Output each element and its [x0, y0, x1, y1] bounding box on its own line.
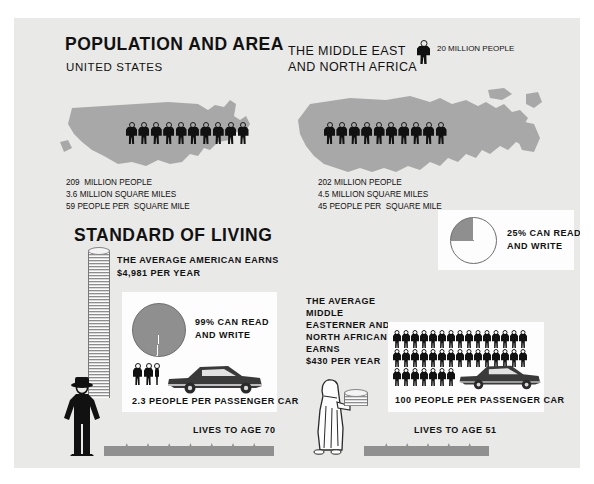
- mena-stat-density: 45 PEOPLE PER SQUARE MILE: [318, 202, 442, 211]
- us-stat-density: 59 PEOPLE PER SQUARE MILE: [66, 202, 190, 211]
- person-icon: [349, 122, 360, 144]
- mena-people-icon-row: [324, 122, 447, 144]
- lifespan-notch: [189, 443, 192, 447]
- person-body: [138, 127, 149, 144]
- person-body: [393, 353, 401, 367]
- lifespan-notch: [468, 443, 471, 447]
- person-body: [393, 372, 401, 386]
- mena-people-icon-row: [393, 368, 455, 386]
- person-icon: [225, 122, 236, 144]
- lifespan-notch: [385, 443, 388, 447]
- person-body: [447, 334, 455, 348]
- mena-literacy-label-line1: 25% CAN READ: [507, 228, 580, 238]
- mena-sedan-car-icon: [458, 362, 542, 390]
- person-icon: [411, 349, 419, 367]
- person-icon: [501, 330, 509, 348]
- mena-stat-area: 4.5 MILLION SQUARE MILES: [318, 190, 428, 199]
- us-car-label: 2.3 PEOPLE PER PASSENGER CAR: [132, 396, 299, 406]
- person-icon: [492, 330, 500, 348]
- person-body: [386, 127, 397, 144]
- person-body: [429, 372, 437, 386]
- mena-people-icon-row: [393, 330, 527, 348]
- person-body: [238, 127, 249, 144]
- person-icon: [456, 330, 464, 348]
- person-icon: [188, 122, 199, 144]
- person-icon: [374, 122, 385, 144]
- person-icon: [447, 368, 455, 386]
- person-icon: [213, 122, 224, 144]
- us-literacy-pie: [132, 303, 186, 357]
- person-body: [200, 127, 211, 144]
- person-icon: [429, 368, 437, 386]
- mena-income-line-5: EARNS: [306, 343, 390, 355]
- person-body: [155, 368, 159, 385]
- person-icon: [519, 330, 527, 348]
- us-subtitle: UNITED STATES: [66, 61, 163, 73]
- person-body: [126, 127, 137, 144]
- person-body: [429, 334, 437, 348]
- us-literacy-label-line2: AND WRITE: [195, 330, 251, 340]
- person-icon: [176, 122, 187, 144]
- legend-person-icon: [417, 40, 430, 64]
- person-body: [151, 127, 162, 144]
- mena-lifespan-label: LIVES TO AGE 51: [414, 425, 497, 435]
- us-income-label-line2: $4,981 PER YEAR: [117, 268, 200, 278]
- person-body: [144, 368, 153, 385]
- person-icon: [133, 363, 142, 385]
- person-body: [336, 127, 347, 144]
- person-icon: [402, 330, 410, 348]
- person-body: [465, 334, 473, 348]
- us-literacy-label-line1: 99% CAN READ: [195, 317, 269, 327]
- mena-income-line-6: $430 PER YEAR: [306, 355, 390, 367]
- person-body: [398, 127, 409, 144]
- infographic-poster: POPULATION AND AREA UNITED STATES THE MI…: [14, 18, 580, 468]
- mena-income-line-4: NORTH AFRICAN: [306, 331, 390, 343]
- person-icon: [393, 368, 401, 386]
- person-body: [411, 127, 422, 144]
- person-icon: [393, 349, 401, 367]
- mena-literacy-label-line2: AND WRITE: [507, 241, 563, 251]
- person-body: [374, 127, 385, 144]
- person-icon: [447, 330, 455, 348]
- mena-car-label: 100 PEOPLE PER PASSENGER CAR: [395, 395, 564, 405]
- person-icon: [438, 330, 446, 348]
- person-icon: [465, 330, 473, 348]
- lifespan-notch: [427, 443, 430, 447]
- person-icon: [411, 122, 422, 144]
- person-body: [438, 353, 446, 367]
- lifespan-notch: [147, 443, 150, 447]
- us-people-icon-row: [126, 122, 249, 144]
- coin-stack-top: [88, 247, 110, 255]
- person-icon: [483, 330, 491, 348]
- person-body: [438, 334, 446, 348]
- page-title: POPULATION AND AREA: [65, 34, 284, 55]
- person-icon: [144, 363, 153, 385]
- person-icon: [423, 122, 434, 144]
- person-icon: [238, 122, 249, 144]
- person-body: [483, 334, 491, 348]
- person-body: [176, 127, 187, 144]
- person-icon: [420, 368, 428, 386]
- person-icon: [429, 330, 437, 348]
- person-icon: [436, 122, 447, 144]
- mena-stat-population: 202 MILLION PEOPLE: [318, 178, 402, 187]
- person-icon: [324, 122, 335, 144]
- mena-coin-stack: [344, 392, 368, 406]
- person-body: [188, 127, 199, 144]
- person-body: [420, 353, 428, 367]
- person-body: [402, 372, 410, 386]
- person-icon: [420, 349, 428, 367]
- person-body: [213, 127, 224, 144]
- lifespan-notch: [253, 443, 256, 447]
- person-icon: [411, 368, 419, 386]
- person-body: [438, 372, 446, 386]
- person-icon: [447, 349, 455, 367]
- us-sedan-car-icon: [166, 362, 264, 394]
- us-stat-population: 209 MILLION PEOPLE: [66, 178, 152, 187]
- person-body: [492, 334, 500, 348]
- person-icon: [438, 368, 446, 386]
- person-body: [456, 334, 464, 348]
- us-stat-area: 3.6 MILLION SQUARE MILES: [66, 190, 176, 199]
- us-income-label-line1: THE AVERAGE AMERICAN EARNS: [117, 255, 279, 265]
- middle-eastern-figure: [310, 376, 358, 456]
